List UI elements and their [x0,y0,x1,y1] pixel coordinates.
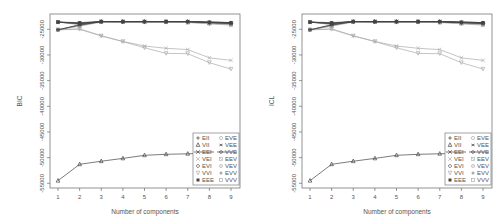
x-axis: 123456789 [308,188,485,200]
icl-chart-panel: ICL -55000-50000-45000-40000-35000-30000… [252,0,503,224]
y-axis: -55000-50000-45000-40000-35000-30000-250… [39,19,50,192]
y-tick-label: -45000 [291,122,297,141]
legend: EIIVIIEEIVEIEVIVVIEEEEVEVEEVVEEEVVEVEVVV… [445,133,491,185]
legend-label: EII [454,135,462,141]
legend-label: VVE [477,149,489,155]
bic-chart: -55000-50000-45000-40000-35000-30000-250… [0,0,251,224]
legend-label: EVI [202,163,212,169]
x-tick-label: 6 [416,194,420,200]
y-tick-label: -50000 [291,148,297,167]
legend-label: EVE [225,135,237,141]
legend-label: VEV [477,163,489,169]
x-tick-label: 2 [330,194,334,200]
series-vei [56,27,233,62]
y-tick-label: -40000 [39,96,45,115]
x-tick-label: 7 [186,194,190,200]
y-axis: -55000-50000-45000-40000-35000-30000-250… [291,19,302,192]
x-tick-label: 8 [208,194,212,200]
icl-chart: -55000-50000-45000-40000-35000-30000-250… [252,0,503,224]
x-axis-title: Number of components [111,208,179,216]
y-axis-title: BIC [16,95,23,106]
y-axis-title: ICL [268,96,275,107]
legend-label: EEV [477,156,489,162]
legend-label: VVV [225,177,237,183]
x-tick-label: 3 [100,194,104,200]
x-tick-label: 1 [56,194,60,200]
legend: EIIVIIEEIVEIEVIVVIEEEEVEVEEVVEEEVVEVEVVV… [193,133,239,185]
series-vei [308,27,485,62]
y-tick-label: -35000 [39,71,45,90]
y-tick-label: -25000 [291,19,297,38]
legend-label: VII [202,142,210,148]
y-tick-label: -25000 [39,19,45,38]
legend-label: VVI [202,170,212,176]
x-axis-title: Number of components [363,208,431,216]
y-tick-label: -55000 [39,173,45,192]
y-tick-label: -40000 [291,96,297,115]
legend-label: EVV [225,170,237,176]
legend-label: VII [454,142,462,148]
x-tick-label: 7 [438,194,442,200]
legend-label: EEV [225,156,237,162]
x-tick-label: 5 [395,194,399,200]
y-tick-label: -55000 [291,173,297,192]
x-tick-label: 4 [373,194,377,200]
x-tick-label: 5 [143,194,147,200]
y-tick-label: -30000 [291,45,297,64]
legend-label: VEI [454,156,464,162]
legend-label: VVV [477,177,489,183]
x-tick-label: 6 [164,194,168,200]
x-tick-label: 9 [229,194,233,200]
legend-label: EEE [454,177,466,183]
bic-chart-panel: BIC -55000-50000-45000-40000-35000-30000… [0,0,251,224]
legend-label: VEE [477,142,489,148]
y-tick-label: -30000 [39,45,45,64]
x-tick-label: 2 [78,194,82,200]
series-vvi [308,28,485,71]
y-tick-label: -50000 [39,148,45,167]
y-tick-label: -35000 [291,71,297,90]
x-tick-label: 3 [352,194,356,200]
legend-label: EII [202,135,210,141]
y-tick-label: -45000 [39,122,45,141]
x-tick-label: 4 [121,194,125,200]
legend-label: EEI [454,149,464,155]
legend-label: EEI [202,149,212,155]
legend-label: VEE [225,142,237,148]
x-tick-label: 8 [460,194,464,200]
legend-label: EEE [202,177,214,183]
series-vvi [56,28,233,71]
legend-label: EVE [477,135,489,141]
x-axis: 123456789 [56,188,233,200]
legend-label: VVI [454,170,464,176]
legend-label: VVE [225,149,237,155]
x-tick-label: 1 [308,194,312,200]
figure-root: BIC -55000-50000-45000-40000-35000-30000… [0,0,503,224]
legend-label: EVI [454,163,464,169]
x-tick-label: 9 [481,194,485,200]
legend-label: VEV [225,163,237,169]
legend-label: EVV [477,170,489,176]
legend-label: VEI [202,156,212,162]
